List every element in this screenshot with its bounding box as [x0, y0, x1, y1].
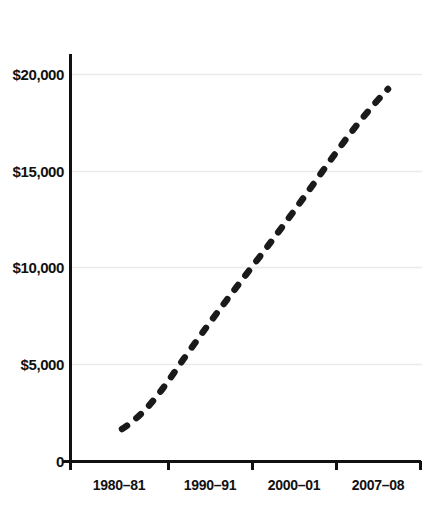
y-axis-label-0: 0	[2, 454, 64, 469]
x-axis-label-1980-81: 1980–81	[70, 478, 168, 492]
y-axis-label-10000: $10,000	[2, 260, 64, 275]
data-series-line	[122, 89, 388, 429]
chart-canvas	[0, 0, 437, 509]
x-axis-label-2000-01: 2000–01	[252, 478, 336, 492]
gridlines	[70, 75, 422, 365]
x-axis-label-2007-08: 2007–08	[336, 478, 420, 492]
line-chart: $20,000 $15,000 $10,000 $5,000 0 1980–81…	[0, 0, 437, 509]
y-axis-label-20000: $20,000	[2, 67, 64, 82]
x-axis-label-1990-91: 1990–91	[168, 478, 252, 492]
y-axis-label-15000: $15,000	[2, 164, 64, 179]
y-axis-label-5000: $5,000	[2, 357, 64, 372]
